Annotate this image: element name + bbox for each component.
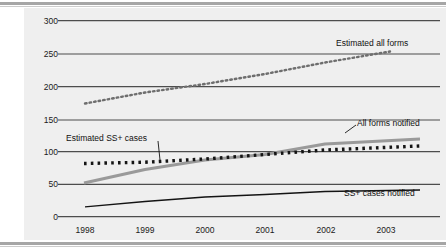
annotation-estimated-ssplus-cases: Estimated SS+ cases: [66, 134, 147, 143]
y-tick-100: 100: [26, 147, 58, 156]
series-estimated-all-forms: [85, 52, 390, 104]
y-tick-150: 150: [26, 116, 58, 125]
y-tick-0: 0: [26, 212, 58, 221]
leader-line-all-forms-notified: [345, 125, 356, 133]
annotation-estimated-all-forms: Estimated all forms: [336, 39, 408, 48]
y-tick-200: 200: [26, 82, 58, 91]
y-tick-50: 50: [26, 180, 58, 189]
chart-figure: 300 250 200 150 100 50 0 1998 1999 2000 …: [0, 0, 446, 248]
series-all-forms-notified: [84, 139, 420, 183]
y-tick-250: 250: [26, 50, 58, 59]
annotation-ssplus-cases-notified: SS+ cases notified: [344, 189, 415, 198]
leader-line-estimated-ssplus-cases: [158, 141, 160, 160]
y-tick-300: 300: [26, 16, 58, 25]
annotation-all-forms-notified: All forms notified: [357, 119, 420, 128]
